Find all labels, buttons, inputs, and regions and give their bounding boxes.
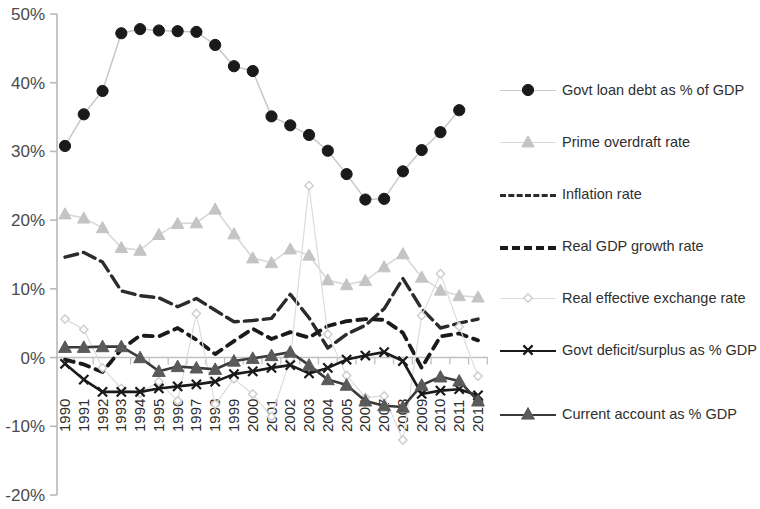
x-axis-tick-label: 1990 [56, 399, 73, 432]
x-axis-tick-label: 2000 [244, 399, 261, 432]
data-point-marker [116, 28, 127, 39]
data-point-marker [522, 408, 535, 420]
x-cross-key-icon [500, 340, 556, 362]
x-axis-tick-label: 2004 [319, 399, 336, 432]
data-point-marker [324, 330, 332, 338]
legend-item-label: Govt loan debt as % of GDP [562, 80, 744, 100]
data-point-marker [305, 182, 313, 190]
legend-item[interactable]: Inflation rate [500, 184, 758, 206]
legend-item-label: Real GDP growth rate [562, 236, 704, 256]
data-point-marker [303, 129, 314, 140]
legend-marker-icon [520, 342, 536, 358]
series-line [65, 319, 478, 372]
legend-item[interactable]: Govt deficit/surplus as % GDP [500, 340, 758, 362]
data-point-marker [379, 193, 390, 204]
triangle-filled-key-icon [500, 404, 556, 426]
data-point-marker [97, 85, 108, 96]
data-point-marker [228, 61, 239, 72]
x-axis-tick-label: 2002 [281, 399, 298, 432]
x-axis-tick-label: 1993 [112, 399, 129, 432]
circle-filled-key-icon [500, 80, 556, 102]
data-point-marker [434, 370, 447, 382]
data-point-marker [59, 140, 70, 151]
data-point-marker [436, 270, 444, 278]
legend-marker-icon [520, 406, 536, 422]
data-point-marker [209, 203, 221, 214]
data-point-marker [284, 243, 296, 254]
data-point-marker [153, 228, 165, 239]
data-point-marker [80, 325, 88, 333]
y-axis-tick-label: 50% [11, 5, 45, 24]
data-point-marker [61, 315, 69, 323]
data-point-marker [96, 222, 108, 233]
data-point-marker [284, 346, 297, 358]
data-point-marker [523, 345, 532, 354]
chart-container: -20%-10%0%10%20%30%40%50%199019911992199… [0, 0, 760, 509]
x-axis-tick-label: 1995 [150, 399, 167, 432]
x-axis-tick-label: 1991 [75, 399, 92, 432]
legend-marker-icon [520, 82, 536, 98]
legend-item[interactable]: Current account as % GDP [500, 404, 758, 426]
data-point-marker [435, 127, 446, 138]
data-point-marker [359, 274, 371, 285]
x-axis-tick-label: 1999 [225, 399, 242, 432]
x-axis-tick-label: 1997 [187, 399, 204, 432]
data-point-marker [247, 65, 258, 76]
data-point-marker [522, 136, 534, 147]
data-point-marker [153, 25, 164, 36]
legend-item-label: Govt deficit/surplus as % GDP [562, 340, 757, 360]
series-3 [65, 319, 478, 372]
data-point-marker [397, 166, 408, 177]
y-axis-tick-label: 30% [11, 142, 45, 161]
data-point-marker [524, 294, 532, 302]
data-point-marker [78, 109, 89, 120]
y-axis-tick-label: 40% [11, 74, 45, 93]
x-axis-tick-label: 1992 [94, 399, 111, 432]
legend-line-swatch [500, 246, 556, 250]
legend-item[interactable]: Prime overdraft rate [500, 132, 758, 154]
data-point-marker [474, 372, 482, 380]
data-point-marker [285, 120, 296, 131]
data-point-marker [134, 24, 145, 35]
chart-legend: Govt loan debt as % of GDPPrime overdraf… [500, 62, 758, 442]
x-axis-tick-label: 2009 [413, 399, 430, 432]
data-point-marker [360, 194, 371, 205]
x-axis-tick-label: 2010 [431, 399, 448, 432]
legend-item-label: Inflation rate [562, 184, 642, 204]
series-1 [59, 203, 484, 302]
data-point-marker [266, 111, 277, 122]
short-dash-key-icon [500, 236, 556, 258]
legend-line-swatch [500, 194, 556, 197]
data-point-marker [454, 105, 465, 116]
series-line [65, 209, 478, 297]
y-axis-tick-label: -20% [5, 486, 45, 505]
data-point-marker [399, 436, 407, 444]
data-point-marker [397, 248, 409, 259]
y-axis-tick-label: -10% [5, 417, 45, 436]
data-point-marker [79, 375, 88, 384]
data-point-marker [416, 144, 427, 155]
legend-item-label: Current account as % GDP [562, 404, 737, 424]
y-axis-tick-label: 0% [20, 349, 45, 368]
x-axis-tick-label: 1994 [131, 399, 148, 432]
legend-item-label: Prime overdraft rate [562, 132, 690, 152]
x-axis-tick-label: 2005 [338, 399, 355, 432]
series-0 [59, 24, 464, 206]
x-axis-tick-label: 2011 [450, 400, 467, 432]
y-axis-tick-label: 20% [11, 211, 45, 230]
data-point-marker [378, 261, 390, 272]
data-point-marker [322, 145, 333, 156]
data-point-marker [191, 26, 202, 37]
legend-item[interactable]: Govt loan debt as % of GDP [500, 80, 758, 102]
data-point-marker [192, 309, 200, 317]
data-point-marker [210, 39, 221, 50]
legend-item-label: Real effective exchange rate [562, 288, 746, 308]
legend-item[interactable]: Real GDP growth rate [500, 236, 758, 258]
legend-marker-icon [520, 134, 536, 150]
triangle-light-key-icon [500, 132, 556, 154]
x-axis-tick-label: 2003 [300, 399, 317, 432]
diamond-open-key-icon [500, 288, 556, 310]
legend-item[interactable]: Real effective exchange rate [500, 288, 758, 310]
y-axis-tick-label: 10% [11, 280, 45, 299]
long-dash-key-icon [500, 184, 556, 206]
